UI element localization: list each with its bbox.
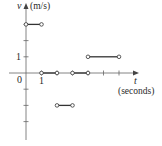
step-segment	[71, 71, 90, 75]
open-endpoint-icon	[55, 71, 59, 75]
x-axis-unit-label: (seconds)	[118, 86, 154, 97]
y-axis-var-label: v	[17, 0, 22, 11]
y-axis-arrow-icon	[24, 3, 29, 9]
segments	[24, 23, 121, 108]
origin-label: 0	[17, 74, 22, 85]
open-endpoint-icon	[71, 71, 75, 75]
step-segment	[55, 104, 74, 108]
velocity-step-chart: v (m/s) t (seconds) 0 1 1	[0, 0, 162, 146]
open-endpoint-icon	[24, 23, 28, 27]
open-endpoint-icon	[86, 71, 90, 75]
open-endpoint-icon	[86, 55, 90, 59]
open-endpoint-icon	[55, 104, 59, 108]
x-tick-label-1: 1	[39, 75, 44, 86]
step-segment	[86, 55, 121, 59]
y-tick-label-1: 1	[16, 51, 21, 62]
x-axis-var-label: t	[134, 75, 137, 86]
open-endpoint-icon	[71, 104, 75, 108]
y-axis-unit-label: (m/s)	[30, 1, 50, 12]
open-endpoint-icon	[40, 23, 44, 27]
step-segment	[24, 23, 43, 27]
open-endpoint-icon	[117, 55, 121, 59]
